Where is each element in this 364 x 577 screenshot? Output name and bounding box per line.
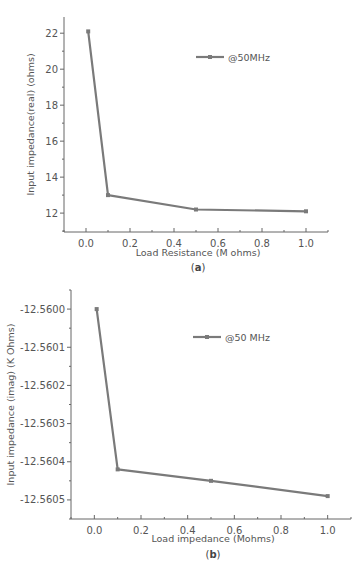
data-line bbox=[88, 31, 306, 211]
y-tick-label: 18 bbox=[45, 100, 58, 111]
x-tick-label: 0.8 bbox=[273, 525, 289, 536]
y-tick-label: 12 bbox=[45, 208, 58, 219]
x-tick-label: 0.2 bbox=[133, 525, 149, 536]
y-tick-label: -12.5602 bbox=[20, 380, 65, 391]
chart-a: 0.00.20.40.60.81.0121416182022@50MHzLoad… bbox=[0, 0, 364, 280]
chart-a-plot: 0.00.20.40.60.81.0121416182022@50MHzLoad… bbox=[0, 0, 364, 280]
figure-caption: (b) bbox=[206, 549, 221, 560]
chart-b: 0.00.20.40.60.81.0-12.5605-12.5604-12.56… bbox=[0, 280, 364, 577]
legend: @50 MHz bbox=[193, 332, 270, 343]
legend-label: @50MHz bbox=[228, 52, 270, 63]
data-marker bbox=[95, 307, 99, 311]
y-tick-label: -12.5604 bbox=[20, 456, 65, 467]
chart-b-plot: 0.00.20.40.60.81.0-12.5605-12.5604-12.56… bbox=[0, 280, 364, 577]
x-tick-label: 0.0 bbox=[78, 238, 94, 249]
data-marker bbox=[209, 479, 213, 483]
y-tick-label: -12.5605 bbox=[20, 494, 65, 505]
y-tick-label: -12.5603 bbox=[20, 418, 65, 429]
data-marker bbox=[194, 208, 198, 212]
x-tick-label: 0.0 bbox=[86, 525, 102, 536]
y-tick-label: 16 bbox=[45, 136, 58, 147]
data-marker bbox=[116, 467, 120, 471]
x-axis-title: Load impedance (Mohms) bbox=[151, 533, 274, 544]
data-marker bbox=[304, 209, 308, 213]
y-axis-title: Input impedance (imag) (K Ohms) bbox=[5, 324, 16, 486]
x-tick-label: 1.0 bbox=[298, 238, 314, 249]
x-tick-label: 1.0 bbox=[320, 525, 336, 536]
legend-label: @50 MHz bbox=[225, 332, 270, 343]
data-marker bbox=[106, 193, 110, 197]
legend-marker bbox=[205, 335, 209, 339]
data-marker bbox=[326, 494, 330, 498]
y-tick-label: 14 bbox=[45, 172, 58, 183]
y-axis-title: Input impedance(real) (ohms) bbox=[25, 53, 36, 195]
y-tick-label: 20 bbox=[45, 64, 58, 75]
figure-caption: (a) bbox=[191, 262, 206, 273]
y-tick-label: 22 bbox=[45, 28, 58, 39]
legend-marker bbox=[208, 55, 212, 59]
y-tick-label: -12.5600 bbox=[20, 304, 65, 315]
y-tick-label: -12.5601 bbox=[20, 342, 65, 353]
data-marker bbox=[86, 29, 90, 33]
legend: @50MHz bbox=[196, 52, 270, 63]
x-axis-title: Load Resistance (M ohms) bbox=[136, 247, 261, 258]
